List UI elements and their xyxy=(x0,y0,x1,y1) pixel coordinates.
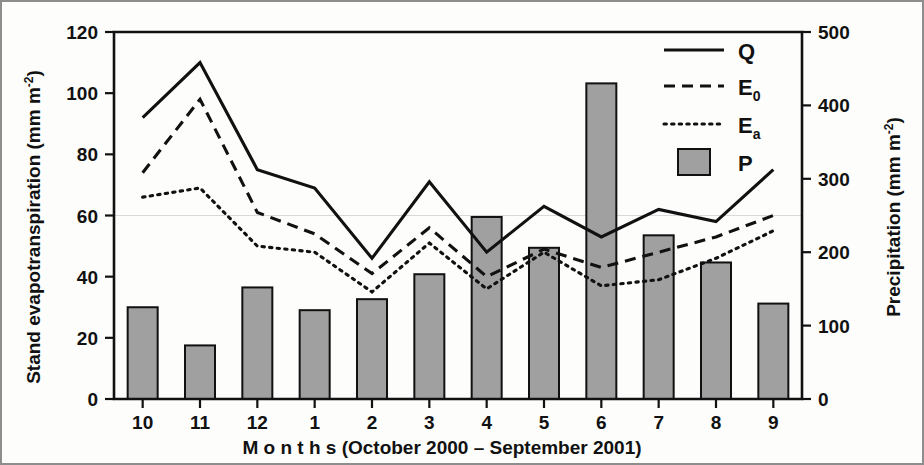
bottom-axis-tick-label: 9 xyxy=(768,412,779,433)
precipitation-bar xyxy=(644,235,674,399)
right-axis-title: Precipitation (mm m-2) xyxy=(882,117,904,317)
precipitation-bar xyxy=(701,262,731,399)
bottom-axis-tick-group: 101112123456789 xyxy=(132,399,779,433)
precipitation-bar xyxy=(128,307,158,399)
legend-label: Q xyxy=(738,39,755,64)
left-axis-title-superscript: -2 xyxy=(22,76,36,87)
left-axis-tick-label: 20 xyxy=(77,328,98,349)
right-axis-tick-label: 400 xyxy=(818,95,850,116)
left-axis-tick-label: 100 xyxy=(66,83,98,104)
left-axis-tick-label: 80 xyxy=(77,144,98,165)
legend-label: Ea xyxy=(738,113,761,142)
figure-frame: 020406080100120 0100200300400500 1011121… xyxy=(0,0,924,465)
left-axis-title-close: ) xyxy=(23,70,44,76)
precipitation-bar xyxy=(300,310,330,399)
bottom-axis-tick-label: 12 xyxy=(247,412,268,433)
right-axis-tick-label: 300 xyxy=(818,169,850,190)
left-axis-title-text: Stand evapotranspiration (mm m xyxy=(23,87,44,384)
right-axis-tick-label: 200 xyxy=(818,242,850,263)
left-axis-tick-label: 60 xyxy=(77,206,98,227)
right-axis-tick-label: 500 xyxy=(818,22,850,43)
legend: QE0EaP xyxy=(664,39,761,176)
precipitation-bar xyxy=(758,304,788,399)
precipitation-bar xyxy=(586,83,616,399)
bottom-axis-tick-label: 1 xyxy=(309,412,320,433)
right-axis-tick-label: 0 xyxy=(818,389,829,410)
precipitation-bar xyxy=(357,299,387,399)
precipitation-bar-group xyxy=(128,83,789,399)
svg-text:Stand evapotranspiration (mm m: Stand evapotranspiration (mm m-2) xyxy=(22,70,44,384)
left-axis-tick-group: 020406080100120 xyxy=(66,22,114,410)
precipitation-bar xyxy=(414,274,444,399)
legend-label: E0 xyxy=(738,75,761,104)
bottom-axis-tick-label: 7 xyxy=(653,412,664,433)
right-axis-title-superscript: -2 xyxy=(882,123,896,134)
right-axis-tick-group: 0100200300400500 xyxy=(802,22,850,410)
svg-text:Precipitation (mm m-2): Precipitation (mm m-2) xyxy=(882,117,904,317)
legend-swatch-bar xyxy=(678,149,710,175)
series-line-e0 xyxy=(143,99,774,276)
precipitation-bar xyxy=(185,345,215,399)
series-line-ea xyxy=(143,188,774,292)
bottom-axis-tick-label: 5 xyxy=(539,412,550,433)
left-axis-title: Stand evapotranspiration (mm m-2) xyxy=(22,70,44,384)
bottom-axis-tick-label: 8 xyxy=(711,412,722,433)
chart-canvas: 020406080100120 0100200300400500 1011121… xyxy=(2,2,924,465)
bottom-axis-tick-label: 3 xyxy=(424,412,435,433)
bottom-axis-tick-label: 10 xyxy=(132,412,153,433)
right-axis-tick-label: 100 xyxy=(818,316,850,337)
right-axis-title-text: Precipitation (mm m xyxy=(883,134,904,317)
left-axis-tick-label: 120 xyxy=(66,22,98,43)
left-axis-tick-label: 40 xyxy=(77,267,98,288)
precipitation-bar xyxy=(529,248,559,399)
x-axis-title: M o n t h s (October 2000 – September 20… xyxy=(242,437,641,458)
bottom-axis-tick-label: 4 xyxy=(481,412,492,433)
series-line-group xyxy=(143,63,774,292)
legend-label: P xyxy=(738,151,753,176)
bottom-axis-tick-label: 2 xyxy=(367,412,378,433)
right-axis-title-close: ) xyxy=(883,117,904,123)
left-axis-tick-label: 0 xyxy=(87,389,98,410)
bottom-axis-tick-label: 11 xyxy=(190,412,211,433)
precipitation-bar xyxy=(242,287,272,399)
bottom-axis-tick-label: 6 xyxy=(596,412,607,433)
